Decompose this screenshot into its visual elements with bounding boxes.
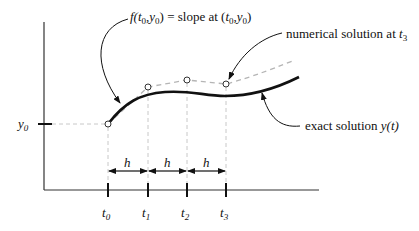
t3-label: t3 — [220, 206, 228, 219]
t1-sub: 1 — [146, 212, 151, 222]
point-t0 — [105, 121, 111, 127]
t2-sub: 2 — [185, 212, 190, 222]
point-t2 — [184, 77, 190, 83]
t0-sub: 0 — [106, 212, 111, 222]
numerical-sub: 3 — [403, 33, 408, 43]
exact-text: exact solution — [305, 118, 381, 133]
h-label-1: h — [124, 156, 131, 169]
exact-solution-curve — [108, 77, 299, 124]
slope-end: ) — [247, 9, 251, 24]
point-t3 — [223, 81, 229, 87]
y0-sub: 0 — [24, 123, 29, 133]
exact-paren: (t) — [387, 118, 399, 133]
point-t1 — [145, 84, 151, 90]
slope-annotation: f(t0,y0) = slope at (t0,y0) — [130, 10, 251, 23]
h-label-2: h — [164, 156, 171, 169]
slope-f: f( — [130, 9, 138, 24]
t2-label: t2 — [181, 206, 189, 219]
exact-annotation: exact solution y(t) — [305, 119, 399, 132]
numerical-solution-curve — [108, 60, 295, 124]
h-label-3: h — [203, 156, 210, 169]
numerical-leader-arrow — [229, 33, 282, 79]
slope-text: ) = slope at ( — [160, 9, 226, 24]
numerical-text: numerical solution at — [286, 26, 399, 41]
numerical-annotation: numerical solution at t3 — [286, 27, 407, 40]
t0-label: t0 — [102, 206, 110, 219]
y0-label: y0 — [18, 117, 28, 130]
t3-sub: 3 — [224, 212, 229, 222]
slope-leader-arrow — [101, 19, 128, 103]
t1-label: t1 — [142, 206, 150, 219]
exact-leader-arrow — [262, 93, 300, 126]
